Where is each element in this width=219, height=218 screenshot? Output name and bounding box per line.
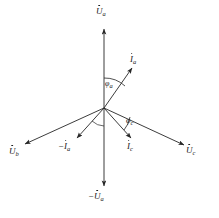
phasor-diagram-figure: Ua Ub Uc Ia −Ia Ic −Ua φa φc: [0, 0, 219, 218]
angle-label-phi-c: φc: [126, 116, 133, 125]
vector-label-minus-Ia: −Ia: [58, 142, 70, 151]
vector-line-Uc: [104, 108, 184, 145]
vector-label-Ia: Ia: [130, 55, 136, 64]
vector-label-Uc: Uc: [186, 146, 195, 155]
vector-line-Ub: [25, 108, 104, 144]
vector-label-Ic: Ic: [127, 142, 133, 151]
angle-label-phi-a: φa: [105, 79, 113, 88]
phasor-diagram-canvas: [0, 0, 219, 218]
vector-label-Ua: Ua: [96, 7, 106, 16]
vector-line-minus-Ia: [77, 108, 104, 138]
vector-label-minus-Ua: −Ua: [88, 192, 104, 201]
angle-arc-origin-hint: [92, 121, 104, 126]
vector-label-Ub: Ub: [9, 147, 19, 156]
